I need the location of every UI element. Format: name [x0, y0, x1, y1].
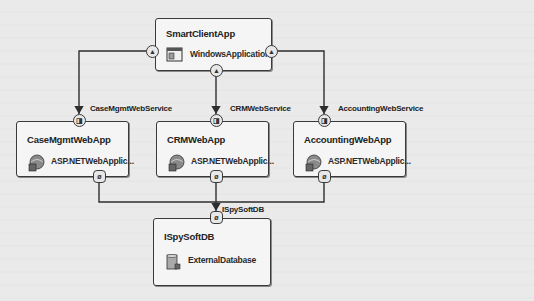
node-type: WindowsApplication — [190, 49, 270, 59]
node-type: ASP.NETWebApplic... — [191, 156, 274, 166]
consumer-port-icon: ◨ — [321, 117, 328, 124]
port-casemgmt-top[interactable]: ◨ — [73, 114, 86, 127]
label-crm-webservice: CRMWebService — [230, 104, 291, 113]
node-crmwebapp[interactable]: CRMWebApp ASP.NETWebApplic... — [156, 121, 269, 177]
port-casemgmt-bottom[interactable]: ø — [93, 170, 106, 183]
node-type: ExternalDatabase — [188, 255, 256, 265]
node-title: ISpySoftDB — [164, 231, 214, 242]
port-smartclient-bottom[interactable]: ▲ — [210, 64, 223, 77]
node-title: CaseMgmtWebApp — [27, 134, 111, 145]
port-db-top[interactable]: ø — [210, 211, 223, 224]
label-db-connection: ISpySoftDB — [222, 205, 264, 214]
wire-casemgmt-db — [99, 183, 216, 202]
port-smartclient-right[interactable]: ▲ — [265, 45, 278, 58]
consumer-port-icon: ◨ — [76, 117, 83, 124]
aspnet-web-application-icon — [27, 154, 45, 172]
node-title: CRMWebApp — [167, 134, 225, 145]
wire-accounting-db — [216, 183, 324, 202]
label-casemgmt-webservice: CaseMgmtWebService — [90, 104, 172, 113]
node-type: ASP.NETWebApplic... — [328, 156, 411, 166]
windows-application-icon — [166, 46, 184, 64]
consumer-port-icon: ◨ — [213, 117, 220, 124]
port-crm-top[interactable]: ◨ — [210, 114, 223, 127]
aspnet-web-application-icon — [167, 154, 185, 172]
database-port-icon: ø — [97, 173, 101, 180]
database-port-icon: ø — [214, 214, 218, 221]
port-smartclient-left[interactable]: ▲ — [146, 45, 159, 58]
web-service-port-icon: ▲ — [213, 67, 220, 74]
node-type: ASP.NETWebApplic... — [51, 156, 134, 166]
port-accounting-bottom[interactable]: ø — [318, 170, 331, 183]
node-title: SmartClientApp — [166, 28, 235, 39]
port-crm-bottom[interactable]: ø — [210, 170, 223, 183]
node-smartclientapp[interactable]: SmartClientApp WindowsApplication — [155, 18, 272, 71]
aspnet-web-application-icon — [304, 154, 322, 172]
node-casemgmtwebapp[interactable]: CaseMgmtWebApp ASP.NETWebApplic... — [16, 121, 129, 177]
node-accountingwebapp[interactable]: AccountingWebApp ASP.NETWebApplic... — [293, 121, 406, 177]
database-port-icon: ø — [214, 173, 218, 180]
external-database-icon — [164, 253, 182, 271]
web-service-port-icon: ▲ — [268, 48, 275, 55]
node-ispysoftdb[interactable]: ISpySoftDB ExternalDatabase — [153, 218, 271, 286]
port-accounting-top[interactable]: ◨ — [318, 114, 331, 127]
node-title: AccountingWebApp — [304, 134, 391, 145]
web-service-port-icon: ▲ — [149, 48, 156, 55]
database-port-icon: ø — [322, 173, 326, 180]
label-accounting-webservice: AccountingWebService — [338, 104, 423, 113]
